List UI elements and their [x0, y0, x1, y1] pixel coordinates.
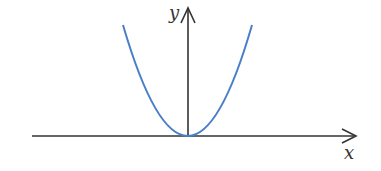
- graph-canvas: [0, 0, 381, 171]
- x-axis-label: x: [344, 142, 354, 163]
- y-axis-label: y: [169, 2, 179, 23]
